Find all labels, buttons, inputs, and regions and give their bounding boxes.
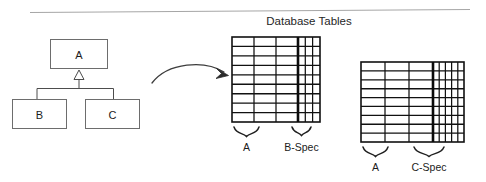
table-b-brace-spec (292, 127, 311, 136)
uml-box-c-label: C (109, 110, 117, 121)
uml-box-a-label: A (75, 50, 82, 61)
uml-box-b-label: B (36, 110, 43, 121)
table-b-brace-a (234, 127, 259, 137)
table-b-segment-label-a: A (243, 142, 250, 153)
figure-vector-layer (0, 0, 486, 182)
table-c-segment-label-spec: C-Spec (411, 162, 446, 173)
section-title: Database Tables (266, 16, 351, 28)
maps-to-arrow-icon (152, 65, 229, 83)
table-c-brace-spec (414, 147, 444, 157)
table-c-brace-a (363, 147, 388, 157)
figure-canvas: Database Tables A B C A B-Spec A C-Spec (0, 0, 486, 182)
top-divider-line (30, 10, 470, 13)
database-table-c[interactable] (361, 62, 464, 157)
table-c-segment-label-a: A (372, 162, 379, 173)
database-table-b[interactable] (232, 37, 320, 137)
generalization-triangle-icon (74, 70, 84, 80)
table-b-segment-label-spec: B-Spec (284, 142, 318, 153)
table-c-frame (361, 62, 464, 142)
